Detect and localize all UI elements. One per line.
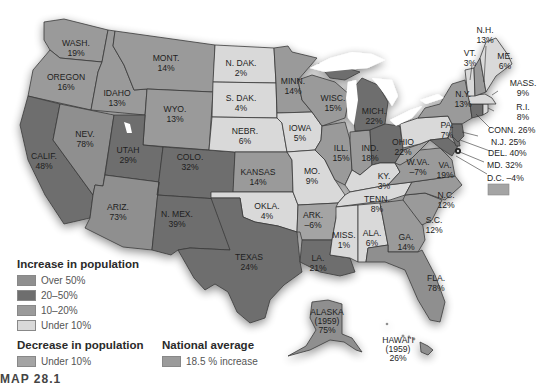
svg-text:OHIO22%: OHIO22% <box>392 137 414 157</box>
svg-text:LA.21%: LA.21% <box>309 253 327 273</box>
svg-text:FLA.78%: FLA.78% <box>427 273 445 293</box>
svg-text:UTAH29%: UTAH29% <box>117 145 140 165</box>
svg-text:VA.19%: VA.19% <box>436 160 454 180</box>
legend-swatch-20-50 <box>17 290 36 301</box>
legend-national-average: National average 18.5 % increase <box>162 339 258 369</box>
dc-star-icon <box>455 148 461 154</box>
svg-text:W.VA.–7%: W.VA.–7% <box>406 157 429 177</box>
legend-decrease-title: Decrease in population <box>17 339 144 351</box>
svg-text:ARIZ.73%: ARIZ.73% <box>107 202 129 222</box>
dc-swatch <box>488 184 509 195</box>
svg-text:MINN.14%: MINN.14% <box>281 76 305 96</box>
legend-swatch-10-20 <box>17 305 36 316</box>
svg-text:S.C.12%: S.C.12% <box>425 215 443 235</box>
legend-item: 20–50% <box>17 288 139 303</box>
svg-text:PA.7%: PA.7% <box>440 120 453 140</box>
legend-swatch-national <box>162 356 181 367</box>
legend-swatch-over-50 <box>17 275 36 286</box>
lake-superior <box>310 52 385 72</box>
svg-text:N.J. 25%: N.J. 25% <box>491 137 526 147</box>
legend-item: Under 10% <box>17 354 144 369</box>
legend-item: Under 10% <box>17 318 139 333</box>
legend-item: 18.5 % increase <box>162 354 258 369</box>
legend-item: 10–20% <box>17 303 139 318</box>
state-ri[interactable] <box>483 104 488 115</box>
svg-text:DEL. 40%: DEL. 40% <box>488 148 527 158</box>
svg-text:ME.6%: ME.6% <box>497 51 512 71</box>
legend-increase-title: Increase in population <box>17 258 139 270</box>
legend-national-title: National average <box>162 339 258 351</box>
map-caption: MAP 28.1 <box>0 372 61 386</box>
svg-text:ILL.15%: ILL.15% <box>332 143 350 163</box>
lake-ontario <box>420 94 444 104</box>
svg-text:CONN. 26%: CONN. 26% <box>488 125 536 135</box>
svg-text:KY.3%: KY.3% <box>378 171 391 191</box>
svg-text:WYO.13%: WYO.13% <box>164 104 187 124</box>
svg-text:N.C.12%: N.C.12% <box>437 190 455 210</box>
svg-text:N.H.13%: N.H.13% <box>476 25 494 45</box>
svg-text:NEV.78%: NEV.78% <box>75 129 94 149</box>
svg-text:MICH.22%: MICH.22% <box>362 106 386 126</box>
svg-text:D.C. –4%: D.C. –4% <box>487 173 524 183</box>
legend-decrease: Decrease in population Under 10% <box>17 339 144 369</box>
hawaii-island-small <box>386 323 389 326</box>
svg-text:MD. 32%: MD. 32% <box>487 160 523 170</box>
legend-increase: Increase in population Over 50% 20–50% 1… <box>17 258 139 333</box>
svg-text:VT.3%: VT.3% <box>464 48 477 68</box>
svg-text:GA.14%: GA.14% <box>397 232 415 252</box>
legend-swatch-under-10 <box>17 320 36 331</box>
svg-text:IND.18%: IND.18% <box>361 143 379 163</box>
svg-text:N.Y.13%: N.Y.13% <box>454 89 472 109</box>
svg-text:ARK.–6%: ARK.–6% <box>303 210 323 230</box>
svg-text:MASS.9%: MASS.9% <box>510 78 537 98</box>
state-conn[interactable] <box>470 104 483 118</box>
legend-swatch-decrease-under-10 <box>17 356 36 367</box>
legend-item: Over 50% <box>17 273 139 288</box>
svg-text:HAWAI'I(1959)26%: HAWAI'I(1959)26% <box>382 335 414 363</box>
svg-text:MO.9%: MO.9% <box>304 166 320 186</box>
state-hawaii[interactable] <box>420 342 433 355</box>
svg-text:R.I.8%: R.I.8% <box>516 102 529 122</box>
